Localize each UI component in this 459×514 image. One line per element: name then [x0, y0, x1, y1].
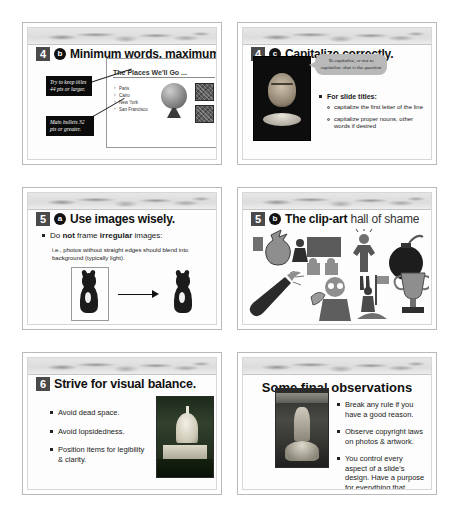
- bullet-list: Do not frame irregular images:: [42, 231, 208, 246]
- slide-thumbnail-6[interactable]: 6 Strive for visual balance. Avoid dead …: [22, 352, 222, 495]
- handout-page: 4 b Minimum words, maximum size The Plac…: [0, 0, 459, 514]
- slide-number-badge: 5: [36, 212, 50, 226]
- list-item: San Francisco: [114, 106, 148, 113]
- list-item: Avoid dead space.: [50, 408, 148, 418]
- shakespeare-portrait-image: [253, 56, 311, 141]
- slide-letter-badge: b: [54, 48, 66, 60]
- photo-thumbnail-1: [195, 83, 214, 101]
- slide-thumbnail-4c[interactable]: 4 c Capitalize correctly. To capitalize,…: [237, 22, 437, 165]
- slide-title-row: Some final observations: [243, 378, 431, 396]
- page-title: The clip-art hall of shame: [285, 212, 419, 226]
- speech-bubble: To capitalize, or not to capitalize: tha…: [315, 54, 387, 75]
- slide-letter-badge: a: [54, 213, 66, 225]
- list-item: You control every aspect of a slide's de…: [337, 454, 425, 490]
- sub-bullet-list: capitalize the first letter of the line …: [327, 104, 425, 131]
- title-rest-part: hall of shame: [347, 212, 419, 226]
- slide-header-band: [28, 28, 216, 45]
- title-bold-part: The clip-art: [285, 212, 347, 226]
- clipart-row-group-2: [249, 271, 429, 325]
- arrow-line: [118, 294, 154, 295]
- list-item: capitalize proper nouns, other words if …: [327, 116, 425, 131]
- explanatory-note: i.e., photos without straight edges shou…: [52, 246, 206, 262]
- bullet-text-mid: frame: [75, 231, 100, 240]
- slide-letter-badge: b: [269, 213, 281, 225]
- bullet-text-pre: Do: [50, 231, 62, 240]
- slide-header-band: [243, 28, 431, 45]
- list-item: Break any rule if you have a good reason…: [337, 400, 425, 419]
- list-item: For slide titles: capitalize the first l…: [319, 92, 425, 131]
- slide-header-band: [28, 358, 216, 375]
- photo-thumbnail-2: [195, 105, 214, 123]
- slide-number-badge: 5: [251, 212, 265, 226]
- money-bag-icon: [253, 230, 290, 265]
- page-title: Strive for visual balance.: [54, 377, 196, 391]
- slide-content-4b: 4 b Minimum words, maximum size The Plac…: [27, 27, 217, 160]
- flag-climber-icon: [357, 275, 389, 319]
- list-item: Cairo: [114, 92, 148, 99]
- example-slide-bullets: Paris Cairo New York San Francisco: [114, 85, 148, 113]
- list-item: Avoid lopsidedness.: [50, 427, 148, 437]
- slide-thumbnail-5a[interactable]: 5 a Use images wisely. Do not frame irre…: [22, 187, 222, 330]
- list-item: Paris: [114, 85, 148, 92]
- list-item: Observe copyright laws on photos & artwo…: [337, 427, 425, 446]
- bullet-text-post: images:: [132, 231, 162, 240]
- slide-title-row: 6 Strive for visual balance.: [36, 375, 210, 393]
- slide-content-5a: 5 a Use images wisely. Do not frame irre…: [27, 192, 217, 325]
- globe-icon: [159, 83, 189, 121]
- slide-header-band: [243, 193, 431, 210]
- slide-header-band: [243, 358, 431, 375]
- presenter-chart-icon: [292, 237, 341, 275]
- slide-content-4c: 4 c Capitalize correctly. To capitalize,…: [242, 27, 432, 160]
- bullet-list: Break any rule if you have a good reason…: [337, 400, 425, 490]
- slide-content-6: 6 Strive for visual balance. Avoid dead …: [27, 357, 217, 490]
- slide-thumbnail-4b[interactable]: 4 b Minimum words, maximum size The Plac…: [22, 22, 222, 165]
- slide-title-row: 5 b The clip-art hall of shame: [251, 210, 425, 228]
- framed-dog-image: [76, 273, 102, 313]
- list-item: Do not frame irregular images:: [42, 231, 208, 241]
- bullet-text-bold-not: not: [62, 231, 74, 240]
- list-item: capitalize the first letter of the line: [327, 104, 425, 112]
- slide-title-row: 5 a Use images wisely.: [36, 210, 210, 228]
- slide-content-5b: 5 b The clip-art hall of shame: [242, 192, 432, 325]
- champagne-bottle-icon: [250, 271, 304, 316]
- slide-header-band: [28, 193, 216, 210]
- list-item-label: For slide titles:: [327, 93, 377, 100]
- trophy-icon: [395, 273, 429, 313]
- bullet-list: Avoid dead space. Avoid lopsidedness. Po…: [50, 408, 148, 469]
- us-capitol-photo: [156, 396, 214, 478]
- slide-content-final: Some final observations Break any rule i…: [242, 357, 432, 490]
- man-with-money-icon: [311, 277, 351, 321]
- slide-thumbnail-5b[interactable]: 5 b The clip-art hall of shame: [237, 187, 437, 330]
- slide-number-badge: 6: [36, 377, 50, 391]
- fountain-statue-photo: [275, 388, 329, 468]
- page-title: Use images wisely.: [70, 212, 175, 226]
- list-item: Position items for legibility & clarity.: [50, 445, 148, 464]
- slide-thumbnail-final[interactable]: Some final observations Break any rule i…: [237, 352, 437, 495]
- callout-title-size: Try to keep titles 44 pts or larger.: [46, 76, 92, 96]
- slide-number-badge: 4: [36, 47, 50, 61]
- callout-bullet-size: Main bullets 32 pts or greater.: [46, 116, 94, 136]
- bullet-list: For slide titles: capitalize the first l…: [319, 92, 425, 136]
- unframed-dog-image: [170, 273, 196, 313]
- bullet-text-bold-irregular: irregular: [100, 231, 132, 240]
- arrow-head-icon: [152, 290, 159, 298]
